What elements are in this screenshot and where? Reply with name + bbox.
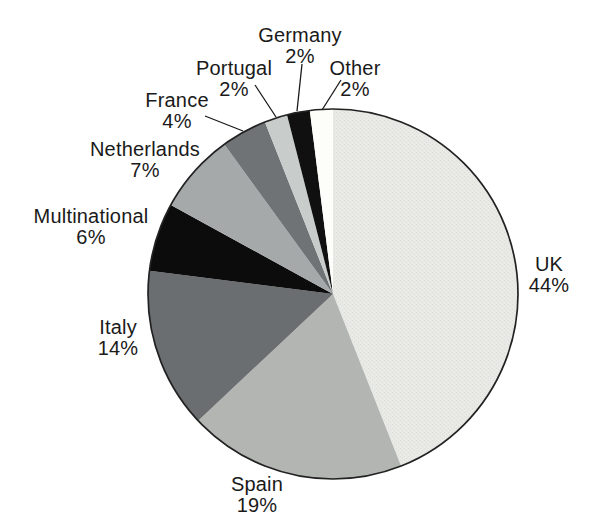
pie-slices-group xyxy=(148,109,518,479)
slice-label-name: Italy xyxy=(98,317,139,338)
slice-label-percent: 2% xyxy=(329,79,380,100)
leader-line-france xyxy=(205,116,243,131)
slice-label-italy: Italy14% xyxy=(98,317,139,359)
slice-label-percent: 19% xyxy=(231,495,283,516)
slice-label-percent: 2% xyxy=(196,79,272,100)
slice-label-netherlands: Netherlands7% xyxy=(90,139,200,181)
slice-label-percent: 44% xyxy=(529,275,570,296)
slice-label-percent: 4% xyxy=(145,111,208,132)
slice-label-name: Netherlands xyxy=(90,139,200,160)
slice-label-name: Germany xyxy=(258,25,342,46)
slice-label-multinational: Multinational6% xyxy=(34,206,149,248)
slice-label-name: Other xyxy=(329,58,380,79)
slice-label-percent: 14% xyxy=(98,338,139,359)
pie-chart-figure: UK44%Spain19%Italy14%Multinational6%Neth… xyxy=(0,0,595,531)
slice-label-percent: 6% xyxy=(34,227,149,248)
slice-label-other: Other2% xyxy=(329,58,380,100)
slice-label-uk: UK44% xyxy=(529,254,570,296)
slice-label-name: UK xyxy=(529,254,570,275)
leader-line-germany xyxy=(297,64,302,111)
slice-label-name: Spain xyxy=(231,474,283,495)
slice-label-name: Multinational xyxy=(34,206,149,227)
slice-label-percent: 7% xyxy=(90,160,200,181)
pie-chart xyxy=(0,0,595,531)
slice-label-spain: Spain19% xyxy=(231,474,283,516)
